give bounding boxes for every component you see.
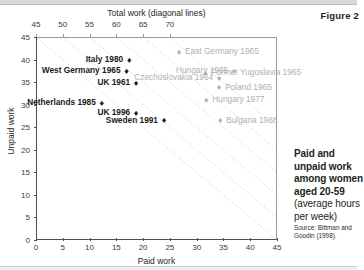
x-tick-label: 5 (61, 243, 65, 252)
data-point-label: Hungary 1977 (212, 95, 264, 104)
x-tick-mark (223, 238, 224, 241)
top-tick-mark (90, 34, 91, 37)
top-tick-label: 60 (112, 20, 121, 29)
y-axis-title: Unpaid work (6, 96, 16, 166)
x-tick-label: 20 (139, 243, 148, 252)
x-tick-mark (116, 238, 117, 241)
x-tick-mark (90, 238, 91, 241)
y-tick-mark (34, 127, 37, 128)
x-tick-label: 25 (165, 243, 174, 252)
data-point-label: UK 1961 (97, 78, 130, 87)
y-tick-label: 25 (14, 123, 30, 132)
x-tick-mark (63, 238, 64, 241)
diamond-marker-icon (216, 75, 223, 82)
y-tick-label: 5 (14, 213, 30, 222)
top-tick-label: 55 (85, 20, 94, 29)
x-tick-label: 35 (219, 243, 228, 252)
caption-source: Source: Bittman and Goodin (1998). (294, 224, 364, 239)
x-tick-label: 10 (85, 243, 94, 252)
caption-subtitle: (average hours per week) (294, 198, 364, 223)
data-point-label: Hungary 1965 (176, 66, 228, 75)
x-axis-title: Paid work (36, 256, 277, 266)
caption-title: Paid and unpaid work among women aged 20… (294, 148, 364, 198)
y-tick-mark (34, 240, 37, 241)
top-tick-label: 70 (165, 20, 174, 29)
top-tick-label: 65 (139, 20, 148, 29)
y-tick-mark (34, 82, 37, 83)
data-point-label: Italy 1980 (86, 55, 123, 64)
figure-caption: Paid and unpaid work among women aged 20… (294, 148, 364, 239)
data-point-label: West Germany 1965 (42, 66, 121, 75)
diamond-marker-icon (175, 49, 182, 56)
y-tick-mark (34, 60, 37, 61)
diamond-marker-icon (123, 68, 130, 75)
x-tick-mark (143, 238, 144, 241)
y-tick-mark (34, 217, 37, 218)
diamond-marker-icon (203, 97, 210, 104)
y-tick-label: 45 (14, 33, 30, 42)
x-tick-mark (170, 238, 171, 241)
top-axis-title: Total work (diagonal lines) (36, 8, 277, 18)
y-tick-label: 15 (14, 168, 30, 177)
y-tick-mark (34, 172, 37, 173)
top-tick-mark (63, 34, 64, 37)
x-tick-label: 45 (273, 243, 282, 252)
diamond-marker-icon (231, 68, 238, 75)
x-tick-label: 40 (246, 243, 255, 252)
x-tick-label: 0 (34, 243, 38, 252)
scatter-chart: Total work (diagonal lines) 051015202530… (0, 0, 288, 270)
y-tick-mark (34, 195, 37, 196)
x-tick-label: 30 (192, 243, 201, 252)
x-tick-mark (250, 238, 251, 241)
y-tick-label: 20 (14, 145, 30, 154)
top-tick-mark (143, 34, 144, 37)
y-tick-mark (34, 37, 37, 38)
diamond-marker-icon (216, 84, 223, 91)
data-point-label: Sweden 1991 (106, 116, 158, 125)
diamond-marker-icon (217, 117, 224, 124)
top-tick-mark (36, 34, 37, 37)
y-tick-label: 40 (14, 55, 30, 64)
data-point-label: Poland 1965 (225, 83, 272, 92)
y-tick-label: 10 (14, 190, 30, 199)
y-tick-mark (34, 150, 37, 151)
x-tick-mark (197, 238, 198, 241)
x-tick-mark (277, 238, 278, 241)
y-tick-label: 35 (14, 78, 30, 87)
diamond-marker-icon (126, 57, 133, 64)
diamond-marker-icon (98, 100, 105, 107)
data-point-label: Netherlands 1985 (27, 98, 96, 107)
top-tick-mark (116, 34, 117, 37)
top-tick-label: 50 (58, 20, 67, 29)
top-tick-mark (170, 34, 171, 37)
x-tick-label: 15 (112, 243, 121, 252)
y-tick-label: 0 (14, 236, 30, 245)
data-point-label: East Germany 1965 (185, 47, 259, 56)
data-point-label: Bulgaria 1988 (226, 116, 277, 125)
diamond-marker-icon (160, 117, 167, 124)
figure-label: Figure 2 (320, 10, 359, 21)
top-tick-label: 45 (32, 20, 41, 29)
